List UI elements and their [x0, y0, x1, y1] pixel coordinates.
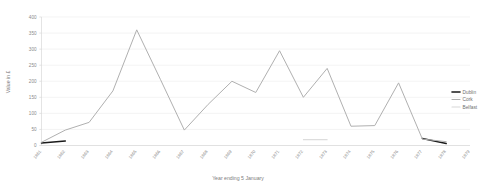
y-tick-label: 250 [29, 63, 37, 68]
y-tick-label: 0 [34, 143, 37, 148]
y-axis-title: Value in £ [5, 71, 11, 94]
y-tick-label: 150 [29, 95, 37, 100]
chart-canvas: 050100150200250300350400 186118621863186… [0, 0, 496, 187]
y-tick-label: 50 [31, 127, 37, 132]
x-axis-title: Year ending 5 January [212, 175, 264, 181]
y-tick-label: 200 [29, 79, 37, 84]
legend-label-belfast: Belfast [463, 105, 478, 110]
y-tick-label: 400 [29, 15, 37, 20]
line-chart-figure: 050100150200250300350400 186118621863186… [0, 0, 496, 187]
y-tick-label: 350 [29, 31, 37, 36]
y-tick-label: 100 [29, 111, 37, 116]
legend-label-cork: Cork [463, 97, 474, 102]
y-tick-label: 300 [29, 47, 37, 52]
legend-label-dublin: Dublin [463, 90, 477, 95]
